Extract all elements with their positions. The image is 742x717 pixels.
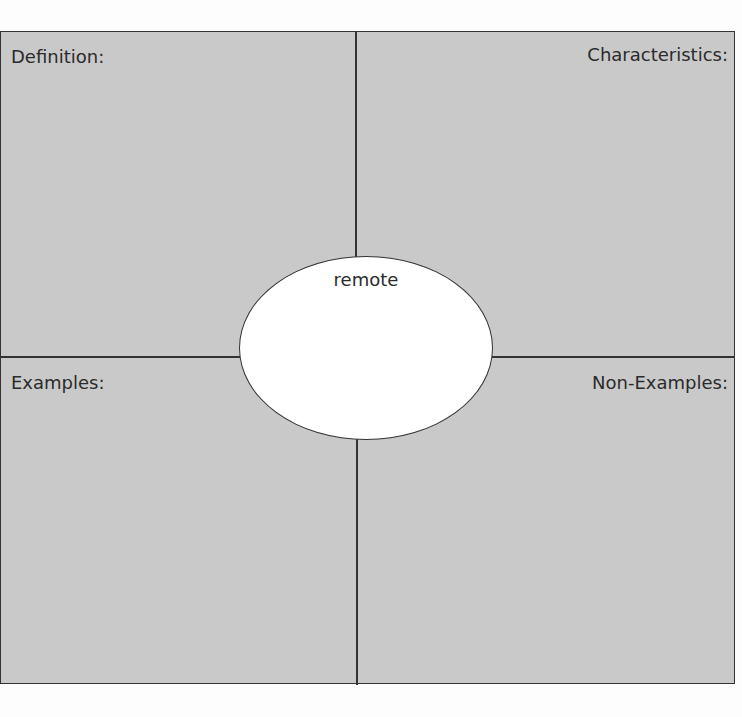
examples-label: Examples:: [11, 372, 105, 393]
characteristics-label: Characteristics:: [587, 44, 728, 65]
center-word: remote: [240, 269, 492, 290]
non-examples-label: Non-Examples:: [592, 372, 728, 393]
definition-label: Definition:: [11, 46, 104, 67]
center-word-ellipse: remote: [239, 256, 493, 440]
